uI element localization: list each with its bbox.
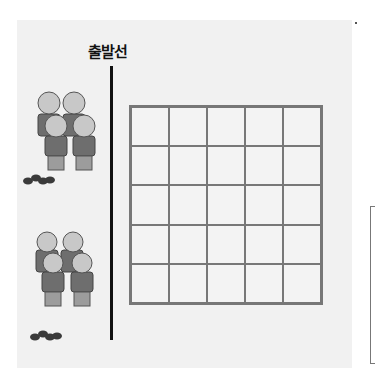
person-icon — [45, 115, 67, 170]
grid-cell — [283, 264, 321, 303]
grid-cell — [245, 225, 283, 264]
grid-cell — [169, 146, 207, 185]
grid-cell — [207, 225, 245, 264]
grid-cell — [283, 185, 321, 224]
person-icon — [73, 115, 95, 170]
grid-cell — [207, 185, 245, 224]
grid-cell — [131, 185, 169, 224]
grid-cell — [169, 107, 207, 146]
grid-cell — [245, 146, 283, 185]
grid-cell — [169, 225, 207, 264]
mark-dot — [355, 22, 357, 24]
side-box-edge — [370, 206, 375, 364]
person-icon — [71, 253, 93, 306]
grid-cell — [131, 146, 169, 185]
start-line — [110, 66, 113, 340]
stones-icon-bottom — [29, 328, 65, 342]
grid-cell — [131, 225, 169, 264]
grid-cell — [169, 264, 207, 303]
grid-cell — [245, 264, 283, 303]
grid-cell — [207, 146, 245, 185]
stones-icon-top — [22, 172, 58, 186]
people-group-top — [30, 86, 105, 176]
grid-cell — [131, 107, 169, 146]
grid-cell — [283, 225, 321, 264]
grid-cell — [169, 185, 207, 224]
grid-cell — [131, 264, 169, 303]
grid-cell — [245, 185, 283, 224]
grid-cell — [245, 107, 283, 146]
grid-cell — [283, 107, 321, 146]
people-group-bottom — [32, 230, 107, 320]
grid-cell — [207, 107, 245, 146]
grid-cell — [207, 264, 245, 303]
start-line-label: 출발선 — [88, 40, 127, 61]
grid-board — [129, 105, 323, 305]
grid-cell — [283, 146, 321, 185]
person-icon — [42, 253, 64, 306]
